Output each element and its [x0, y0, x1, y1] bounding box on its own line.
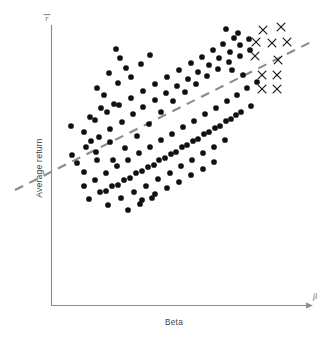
data-point-dot — [106, 70, 112, 76]
data-point-cross — [268, 39, 276, 47]
data-point-dot — [139, 168, 145, 174]
data-point-dot — [200, 166, 206, 172]
data-point-dot — [81, 183, 87, 189]
data-point-dot — [109, 183, 115, 189]
x-axis-caption: Beta — [165, 318, 183, 327]
data-point-dot — [178, 163, 184, 169]
data-point-cross — [259, 26, 267, 34]
data-point-dot — [140, 88, 146, 94]
data-point-dot — [147, 144, 153, 150]
data-point-dot — [223, 26, 229, 32]
data-point-dot — [182, 89, 188, 95]
data-point-dot — [169, 131, 175, 137]
data-point-cross — [273, 85, 281, 93]
data-point-dot — [206, 62, 212, 68]
data-point-dot — [145, 164, 151, 170]
data-point-dot — [118, 195, 124, 201]
data-point-dot — [228, 116, 234, 122]
data-point-dot — [210, 47, 216, 53]
data-point-dot — [87, 114, 93, 120]
data-point-dot — [180, 124, 186, 130]
data-point-dot — [127, 175, 133, 181]
data-point-dot — [231, 35, 237, 41]
data-point-dot — [167, 170, 173, 176]
data-point-dot — [136, 150, 142, 156]
data-point-dot — [92, 117, 98, 123]
data-point-dot — [88, 138, 94, 144]
data-point-dot — [170, 98, 176, 104]
data-point-dot — [193, 81, 199, 87]
data-points-layer — [68, 26, 260, 213]
data-point-dot — [202, 111, 208, 117]
data-point-cross — [252, 38, 260, 46]
data-point-dot — [74, 160, 80, 166]
data-point-dot — [224, 98, 230, 104]
data-point-cross — [273, 71, 281, 79]
data-point-dot — [188, 172, 194, 178]
data-point-dot — [168, 151, 174, 157]
data-point-dot — [116, 102, 122, 108]
data-point-dot — [176, 179, 182, 185]
data-point-dot — [158, 137, 164, 143]
data-point-dot — [92, 177, 98, 183]
data-point-dot — [134, 133, 140, 139]
data-point-dot — [195, 69, 201, 75]
data-point-dot — [211, 159, 217, 165]
data-point-dot — [152, 81, 158, 87]
data-point-dot — [185, 76, 191, 82]
data-point-dot — [105, 202, 111, 208]
data-point-dot — [184, 142, 190, 148]
data-point-dot — [137, 201, 143, 207]
data-point-dot — [151, 162, 157, 168]
data-point-dot — [174, 83, 180, 89]
data-point-dot — [212, 125, 218, 131]
data-point-dot — [69, 152, 75, 158]
data-point-dot — [114, 163, 120, 169]
data-point-dot — [128, 95, 134, 101]
data-point-dot — [156, 157, 162, 163]
data-point-dot — [98, 105, 104, 111]
data-point-dot — [81, 129, 87, 135]
data-point-dot — [247, 47, 253, 53]
data-point-dot — [152, 97, 158, 103]
data-point-dot — [68, 123, 74, 129]
data-point-dot — [146, 121, 152, 127]
data-point-cross — [283, 38, 291, 46]
data-point-dot — [83, 144, 89, 150]
data-point-dot — [81, 169, 87, 175]
data-point-dot — [162, 155, 168, 161]
data-point-dot — [113, 46, 119, 52]
scatter-plot-figure: r β Beta Average return — [0, 0, 329, 338]
data-point-dot — [237, 53, 243, 59]
data-point-dot — [155, 176, 161, 182]
data-point-dot — [226, 59, 232, 65]
data-point-dot — [101, 92, 107, 98]
data-point-dot — [158, 109, 164, 115]
data-point-dot — [125, 207, 131, 213]
data-point-dot — [199, 54, 205, 60]
data-point-dot — [206, 129, 212, 135]
data-point-cross — [251, 52, 259, 60]
data-point-dot — [211, 144, 217, 150]
data-point-cross — [258, 85, 266, 93]
data-point-dot — [216, 55, 222, 61]
data-point-dot — [103, 170, 109, 176]
data-point-dot — [176, 67, 182, 73]
data-point-dot — [163, 90, 169, 96]
regression-line — [15, 41, 313, 190]
data-point-dot — [217, 123, 223, 129]
y-axis-caption: Average return — [34, 138, 44, 198]
data-point-dot — [115, 80, 121, 86]
data-point-dot — [117, 55, 123, 61]
x-axis-symbol-beta: β — [312, 292, 318, 301]
data-point-dot — [122, 145, 128, 151]
data-point-dot — [143, 183, 149, 189]
data-point-dot — [220, 41, 226, 47]
data-point-dot — [204, 73, 210, 79]
data-point-dot — [191, 118, 197, 124]
data-point-dot — [179, 144, 185, 150]
data-point-dot — [237, 42, 243, 48]
data-point-dot — [115, 182, 121, 188]
data-point-dot — [94, 157, 100, 163]
data-point-dot — [94, 85, 100, 91]
